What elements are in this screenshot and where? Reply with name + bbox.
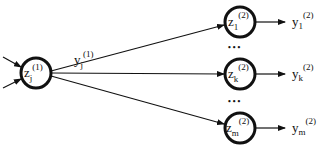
edge-to-node-k: [51, 73, 224, 74]
ellipsis-2: • • •: [228, 97, 241, 106]
edge-to-node-1: [51, 25, 224, 71]
output-1-label: y1(2): [292, 10, 314, 31]
edge-to-node-m: [51, 76, 224, 124]
output-k-label: yk(2): [292, 62, 314, 83]
ellipsis-1: • • •: [228, 43, 241, 52]
output-m-label: ym(2): [292, 116, 316, 137]
incoming-arrow-1: [3, 57, 21, 67]
incoming-arrow-2: [3, 79, 21, 88]
input-output-label: yj(1): [74, 49, 94, 70]
network-diagram: zj(1) yj(1) z1(2) y1(2) • • • zk(2) yk(2…: [0, 0, 336, 153]
